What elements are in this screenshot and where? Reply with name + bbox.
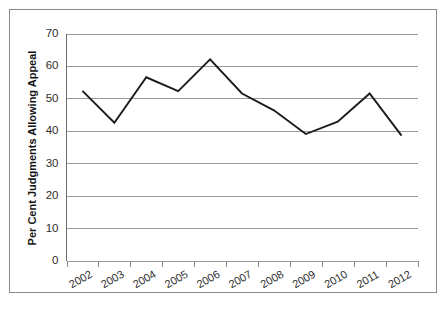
x-axis-tick-label: 2012 [386,268,413,291]
x-axis-tick-label: 2011 [354,268,380,290]
y-axis-tick-label: 60 [46,59,59,71]
x-axis-tick-label: 2006 [194,268,221,291]
y-axis-tick-label: 50 [46,92,59,104]
line-chart: 010203040506070 200220032004200520062007… [0,0,446,309]
x-axis-tick-label: 2004 [131,268,158,291]
x-axis-tick-label: 2010 [322,268,349,291]
x-axis-tick-label: 2008 [258,268,285,291]
x-axis-tick-label: 2005 [163,268,190,291]
x-axis-tick-label: 2009 [290,268,317,291]
data-series-line [82,59,401,135]
x-axis-tick-labels: 2002200320042005200620072008200920102011… [67,268,413,291]
x-axis-tick-label: 2003 [99,268,126,291]
x-axis-tick-label: 2002 [67,268,94,291]
y-axis-tick-label: 0 [52,254,58,266]
y-axis-tick-label: 70 [46,27,59,39]
x-axis-tick-label: 2007 [226,268,253,291]
y-axis-title: Per Cent Judgments Allowing Appeal [26,51,38,246]
gridlines-group [67,35,418,262]
y-axis-tick-label: 20 [46,189,59,201]
y-axis-tick-labels: 010203040506070 [46,27,59,266]
y-axis-tick-label: 30 [46,157,59,169]
y-axis-tick-label: 10 [46,222,59,234]
y-axis-tick-label: 40 [46,124,59,136]
